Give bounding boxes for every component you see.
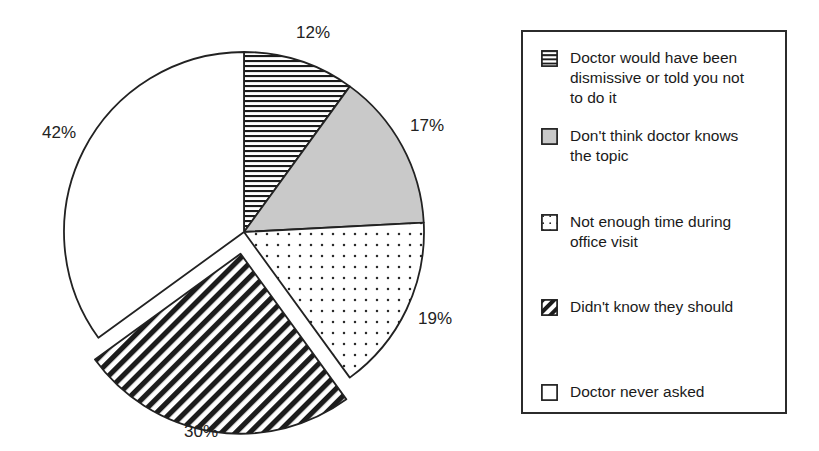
legend-item-label: Doctor never asked	[570, 382, 704, 402]
horizontal-lines-swatch	[541, 50, 558, 67]
legend-item[interactable]: Not enough time during office visit	[541, 212, 731, 252]
pie-chart-figure: 12%17%19%30%42% Doctor would have been d…	[0, 0, 819, 451]
legend-item[interactable]: Don't think doctor knows the topic	[541, 126, 738, 166]
legend-item-label: Didn't know they should	[570, 297, 733, 317]
legend-item-label: Not enough time during office visit	[570, 212, 731, 252]
legend-item-label: Don't think doctor knows the topic	[570, 126, 738, 166]
legend-item-label: Doctor would have been dismissive or tol…	[570, 48, 744, 108]
pie-slices-group	[64, 52, 424, 434]
pie-percent-label: 19%	[418, 310, 452, 327]
empty-white-swatch	[541, 384, 558, 401]
pie-percent-label: 30%	[184, 423, 218, 440]
diagonal-hatch-swatch	[541, 299, 558, 316]
legend-box: Doctor would have been dismissive or tol…	[521, 30, 787, 414]
pie-percent-label: 12%	[296, 24, 330, 41]
legend-item[interactable]: Doctor would have been dismissive or tol…	[541, 48, 744, 108]
legend-item[interactable]: Doctor never asked	[541, 382, 704, 402]
legend-item[interactable]: Didn't know they should	[541, 297, 733, 317]
solid-gray-swatch	[541, 128, 558, 145]
dots-swatch	[541, 214, 558, 231]
pie-percent-label: 42%	[42, 124, 76, 141]
pie-percent-label: 17%	[410, 117, 444, 134]
